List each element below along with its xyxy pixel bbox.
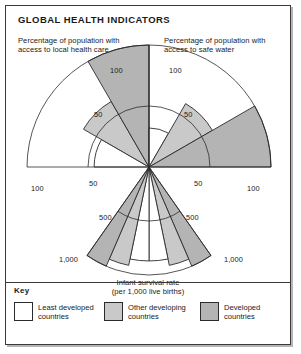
tick-water-outer: 100 <box>247 184 260 193</box>
tick-health-outer: 100 <box>31 184 44 193</box>
tick-water-top: 100 <box>169 66 182 75</box>
wedge-group <box>83 45 271 266</box>
legend-label-least-developed: Least developed countries <box>38 302 94 322</box>
tick-infant-mid-right: 500 <box>186 213 199 222</box>
legend-label-developed: Developed countries <box>224 302 260 322</box>
tick-health-top: 100 <box>110 66 123 75</box>
legend-title: Key <box>14 286 29 295</box>
legend-item-other-developing[interactable]: Other developing countries <box>104 302 186 322</box>
tick-infant-outer-right: 1,000 <box>224 255 243 264</box>
tick-infant-mid-left: 500 <box>99 213 112 222</box>
tick-health-mid: 50 <box>94 110 102 119</box>
legend-label-other-developing: Other developing countries <box>128 302 186 322</box>
legend-swatch-least-developed <box>14 302 33 321</box>
legend-item-least-developed[interactable]: Least developed countries <box>14 302 94 322</box>
legend: Key Least developed countries Other deve… <box>6 282 290 344</box>
tick-water-mid: 50 <box>184 110 192 119</box>
tick-infant-outer-left: 1,000 <box>59 255 78 264</box>
legend-divider <box>6 282 290 283</box>
tick-water-outer-mid: 50 <box>194 179 202 188</box>
legend-swatch-developed <box>200 302 219 321</box>
chart-figure: GLOBAL HEALTH INDICATORS Percentage of p… <box>5 5 291 345</box>
legend-item-developed[interactable]: Developed countries <box>200 302 260 322</box>
legend-swatch-other-developing <box>104 302 123 321</box>
tick-health-outer-mid: 50 <box>89 179 97 188</box>
